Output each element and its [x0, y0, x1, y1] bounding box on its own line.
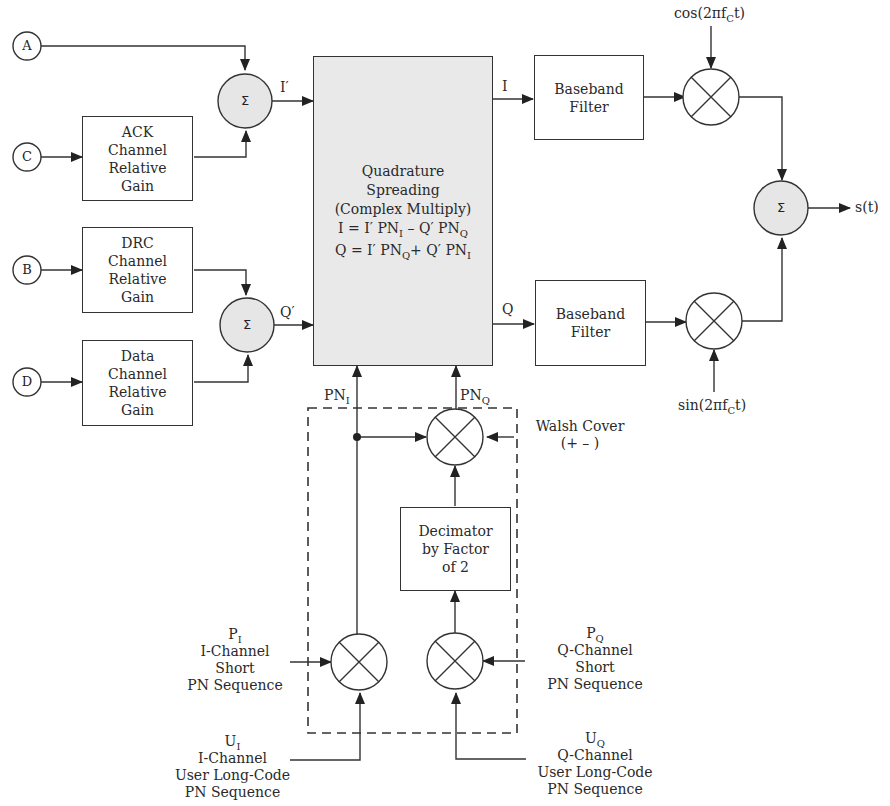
quadrature-spreading-block: Quadrature Spreading (Complex Multiply) …: [313, 56, 493, 366]
eq-part: I = I′ PN: [338, 220, 399, 236]
source-line: User Long-Code: [530, 764, 660, 781]
signal-i-prime: I′: [280, 79, 289, 96]
carrier-sub: C: [726, 13, 734, 24]
carrier-text: sin(2πf: [678, 397, 727, 413]
source-line: I-Channel: [180, 643, 290, 660]
eq-sub: Q: [402, 250, 410, 261]
pn-source-uq: UQ Q-Channel User Long-Code PN Sequence: [530, 730, 660, 798]
mixer-walsh: [427, 409, 483, 465]
spreader-title: Spreading: [366, 181, 439, 200]
source-line: Q-Channel: [535, 642, 655, 659]
block-line: Gain: [121, 177, 154, 195]
input-label-a: A: [12, 31, 42, 61]
pn-source-pi: PI I-Channel Short PN Sequence: [180, 626, 290, 694]
source-line: PN Sequence: [535, 676, 655, 693]
carrier-sin: sin(2πfCt): [678, 397, 746, 414]
signal-q-prime: Q′: [280, 304, 295, 321]
source-line: Q-Channel: [530, 747, 660, 764]
pn-text: PN: [460, 387, 482, 403]
ack-gain-block: ACK Channel Relative Gain: [82, 116, 193, 201]
block-line: DRC: [121, 234, 153, 252]
source-line: User Long-Code: [170, 767, 295, 784]
decimator-block: Decimator by Factor of 2: [400, 507, 511, 591]
decimator-line: of 2: [442, 558, 469, 576]
carrier-text: t): [734, 5, 745, 21]
input-label-b: B: [12, 255, 42, 285]
source-line: I-Channel: [170, 750, 295, 767]
carrier-text: cos(2πf: [674, 5, 726, 21]
carrier-sub: C: [727, 405, 735, 416]
source-line: PN Sequence: [180, 677, 290, 694]
input-label-c: C: [12, 142, 42, 172]
mixer-cos: [683, 69, 739, 125]
eq-part: + Q′ PN: [410, 242, 467, 258]
signal-output: s(t): [855, 199, 879, 216]
sym: U: [585, 730, 597, 746]
input-label-d: D: [12, 367, 42, 397]
block-line: Data: [121, 347, 155, 365]
baseband-filter-q: Baseband Filter: [535, 280, 646, 366]
source-line: PN Sequence: [530, 781, 660, 798]
pn-source-ui: UI I-Channel User Long-Code PN Sequence: [170, 733, 295, 801]
walsh-cover-label: Walsh Cover (+ – ): [530, 418, 630, 452]
decimator-line: by Factor: [422, 540, 489, 558]
pn-source-pq: PQ Q-Channel Short PN Sequence: [535, 625, 655, 693]
filter-line: Baseband: [554, 80, 623, 98]
block-line: Relative: [109, 159, 167, 177]
source-line: Short: [180, 660, 290, 677]
signal-i: I: [502, 78, 508, 95]
source-symbol: UI: [170, 733, 295, 750]
source-symbol: PI: [180, 626, 290, 643]
signal-q: Q: [502, 301, 513, 318]
mixer-q-channel: [427, 633, 483, 689]
decimator-line: Decimator: [418, 522, 492, 540]
block-line: Channel: [108, 141, 167, 159]
walsh-line: (+ – ): [530, 435, 630, 452]
source-line: Short: [535, 659, 655, 676]
equation-q: Q = I′ PNQ+ Q′ PNI: [335, 241, 471, 260]
eq-sub: Q: [460, 228, 468, 239]
block-line: Relative: [109, 270, 167, 288]
eq-part: – Q′ PN: [403, 220, 460, 236]
mixer-sin: [686, 293, 742, 349]
signal-pn-i: PNI: [324, 387, 350, 404]
pn-text: PN: [324, 387, 346, 403]
spreader-title: (Complex Multiply): [335, 200, 472, 219]
sym: U: [225, 733, 237, 749]
filter-line: Filter: [571, 323, 610, 341]
eq-part: Q = I′ PN: [335, 242, 402, 258]
signal-pn-q: PNQ: [460, 387, 490, 404]
pn-sub: Q: [482, 395, 490, 406]
junction-dot: [353, 433, 361, 441]
filter-line: Baseband: [556, 305, 625, 323]
block-line: Gain: [121, 401, 154, 419]
mixer-i-channel: [331, 634, 387, 690]
block-line: Channel: [108, 365, 167, 383]
block-line: Channel: [108, 252, 167, 270]
block-line: Gain: [121, 288, 154, 306]
drc-gain-block: DRC Channel Relative Gain: [82, 227, 193, 313]
block-line: Relative: [109, 383, 167, 401]
filter-line: Filter: [569, 98, 608, 116]
block-line: ACK: [122, 123, 153, 141]
eq-sub: I: [467, 250, 471, 261]
spreader-title: Quadrature: [362, 162, 444, 181]
sigma-icon: Σ: [761, 188, 801, 228]
walsh-line: Walsh Cover: [530, 418, 630, 435]
source-symbol: PQ: [535, 625, 655, 642]
sym: P: [586, 625, 595, 641]
baseband-filter-i: Baseband Filter: [534, 55, 644, 140]
sigma-icon: Σ: [227, 305, 267, 345]
data-gain-block: Data Channel Relative Gain: [82, 340, 193, 426]
sym: P: [228, 626, 237, 642]
source-line: PN Sequence: [170, 784, 295, 801]
pn-sub: I: [346, 395, 350, 406]
sigma-icon: Σ: [225, 81, 265, 121]
carrier-text: t): [735, 397, 746, 413]
carrier-cos: cos(2πfCt): [674, 5, 745, 22]
source-symbol: UQ: [530, 730, 660, 747]
equation-i: I = I′ PNI – Q′ PNQ: [338, 219, 468, 238]
